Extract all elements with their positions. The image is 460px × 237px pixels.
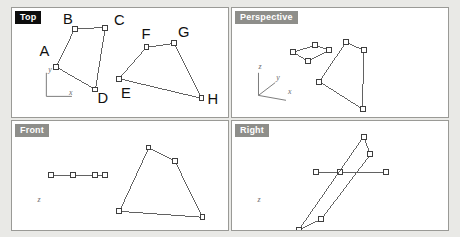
axis-gizmo: zy (257, 195, 287, 230)
vertex-point-3[interactable] (199, 96, 204, 101)
degenerate-line[interactable] (314, 170, 389, 175)
viewport-canvas-right[interactable]: zy (232, 121, 448, 230)
axis-label-y: y (47, 65, 52, 74)
vertex-point-1[interactable] (368, 152, 373, 157)
vertex-point-1[interactable] (72, 26, 77, 31)
vertex-point-2[interactable] (93, 173, 98, 178)
viewport-front[interactable]: Front zx (11, 120, 229, 231)
vertex-point-1[interactable] (361, 48, 366, 53)
point-label-B: B (63, 11, 73, 27)
polyline-edges[interactable] (119, 43, 201, 98)
vertex-point-0[interactable] (314, 170, 319, 175)
vertex-point-2[interactable] (103, 25, 108, 30)
polyline-edges[interactable] (299, 137, 371, 230)
point-label-G: G (178, 24, 189, 40)
vertex-point-0[interactable] (49, 173, 54, 178)
vertex-point-2[interactable] (319, 217, 324, 222)
viewport-label-front[interactable]: Front (15, 124, 49, 137)
viewport-perspective[interactable]: Perspective zyx (231, 7, 449, 118)
vertex-point-1[interactable] (313, 43, 318, 48)
vertex-point-0[interactable] (343, 40, 348, 45)
quad-small[interactable] (290, 43, 331, 64)
axis-label-z: z (37, 195, 41, 204)
point-label-C: C (114, 12, 125, 28)
quad-right[interactable] (296, 134, 373, 230)
vertex-point-0[interactable] (54, 64, 59, 69)
viewport-canvas-front[interactable]: zx (12, 121, 228, 230)
quad-efgh[interactable]: EFGH (117, 24, 218, 107)
point-label-H: H (207, 91, 218, 107)
viewport-label-perspective[interactable]: Perspective (235, 11, 298, 24)
point-label-A: A (39, 43, 49, 59)
vertex-point-3[interactable] (305, 59, 310, 64)
viewport-label-top[interactable]: Top (15, 11, 41, 24)
vertex-point-3[interactable] (296, 228, 301, 230)
axis-label-z: z (257, 62, 261, 71)
axis-label-z: z (257, 195, 261, 204)
point-label-D: D (97, 90, 108, 106)
vertex-point-1[interactable] (70, 173, 75, 178)
vertex-point-0[interactable] (290, 50, 295, 55)
quad-front[interactable] (117, 145, 205, 220)
vertex-point-0[interactable] (146, 145, 151, 150)
vertex-point-0[interactable] (361, 134, 366, 139)
vertex-point-2[interactable] (172, 41, 177, 46)
viewport-canvas-top[interactable]: yxABCDEFGH (12, 8, 228, 117)
vertex-point-3[interactable] (117, 209, 122, 214)
vertex-point-1[interactable] (144, 45, 149, 50)
axis-gizmo: zx (37, 195, 65, 230)
viewport-canvas-perspective[interactable]: zyx (232, 8, 448, 117)
vertex-point-1[interactable] (173, 159, 178, 164)
quad-abcd[interactable]: ABCD (39, 11, 125, 107)
polyline-edges[interactable] (293, 45, 329, 61)
quad-large[interactable] (317, 40, 366, 112)
vertex-point-3[interactable] (317, 79, 322, 84)
viewport-top[interactable]: Top yxABCDEFGH (11, 7, 229, 118)
point-label-F: F (142, 26, 151, 42)
vertex-point-3[interactable] (103, 173, 108, 178)
viewport-grid: Top yxABCDEFGH Perspective zyx Front zx … (11, 7, 449, 231)
axis-label-x: x (68, 88, 73, 97)
axis-y-line (258, 83, 275, 96)
vertex-point-2[interactable] (200, 215, 205, 220)
vertex-point-2[interactable] (384, 170, 389, 175)
polyline-edges[interactable] (56, 28, 105, 90)
axis-label-x: x (287, 87, 292, 96)
vertex-point-0[interactable] (117, 76, 122, 81)
axis-label-y: y (275, 73, 280, 82)
cad-viewport-window: Top yxABCDEFGH Perspective zyx Front zx … (0, 0, 460, 237)
viewport-right[interactable]: Right zy (231, 120, 449, 231)
axis-gizmo: zyx (257, 62, 291, 100)
vertex-point-2[interactable] (360, 107, 365, 112)
polyline-edges[interactable] (119, 148, 202, 218)
viewport-label-right[interactable]: Right (235, 124, 269, 137)
polyline-edges[interactable] (319, 42, 363, 109)
point-label-E: E (121, 85, 131, 101)
axis-gizmo: yx (46, 65, 73, 98)
axis-x-line (258, 95, 285, 100)
vertex-point-2[interactable] (327, 48, 332, 53)
degenerate-line[interactable] (49, 173, 108, 178)
